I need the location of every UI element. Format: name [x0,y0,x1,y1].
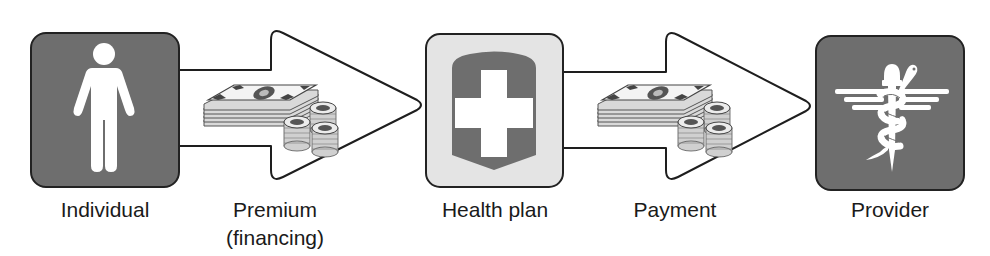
label-provider: Provider [816,196,964,224]
label-payment: Payment [600,196,750,224]
label-individual: Individual [31,196,179,224]
payment-arrow [563,33,810,179]
label-health-plan: Health plan [420,196,570,224]
label-premium-line1: Premium [200,196,350,224]
node-provider [816,36,964,190]
label-premium-line2: (financing) [200,224,350,252]
flow-diagram: Individual Premium (financing) Health pl… [0,0,990,256]
label-premium: Premium (financing) [200,196,350,252]
node-individual [31,33,179,187]
shield-cross-icon [452,52,536,171]
node-health-plan [426,34,563,187]
premium-arrow [179,31,421,179]
